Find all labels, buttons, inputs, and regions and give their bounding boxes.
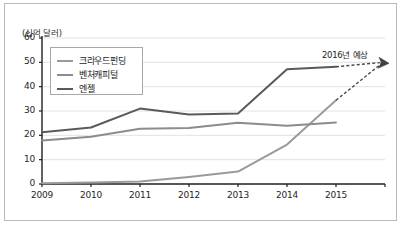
forecast-annotation-label: 2016년 예상 [322, 48, 368, 60]
forecast-dashed-line-2 [336, 62, 383, 66]
series-line-1 [42, 122, 336, 140]
legend-label: 벤처캐피털 [79, 71, 118, 80]
forecast-dashed-line-0 [336, 62, 383, 100]
y-tick-label-10: 10 [13, 154, 35, 164]
legend-swatch-line-icon [57, 60, 73, 62]
forecast-arrows [336, 57, 389, 100]
x-tick-label-2011: 2011 [120, 190, 160, 200]
legend-swatch-line-icon [57, 88, 73, 90]
legend-swatch-line-icon [57, 74, 73, 76]
y-tick-label-40: 40 [13, 81, 35, 91]
y-tick-label-30: 30 [13, 105, 35, 115]
x-tick-label-2014: 2014 [267, 190, 307, 200]
y-tick-label-60: 60 [13, 32, 35, 42]
legend-item-2: 엔젤 [57, 82, 94, 96]
x-tick-label-2010: 2010 [71, 190, 111, 200]
series-line-0 [42, 100, 336, 183]
x-tick-label-2009: 2009 [22, 190, 62, 200]
chart-figure: (십억 달러) 6050403020100 200920102011201220… [0, 0, 402, 225]
x-tick-label-2013: 2013 [218, 190, 258, 200]
legend-label: 엔젤 [79, 85, 94, 94]
legend-item-0: 크라우드펀딩 [57, 54, 125, 68]
y-tick-label-0: 0 [13, 178, 35, 188]
y-tick-label-20: 20 [13, 129, 35, 139]
x-tick-label-2012: 2012 [169, 190, 209, 200]
x-tick-label-2015: 2015 [316, 190, 356, 200]
chart-legend: 크라우드펀딩벤처캐피털엔젤 [50, 47, 143, 95]
legend-item-1: 벤처캐피털 [57, 68, 118, 82]
legend-label: 크라우드펀딩 [79, 57, 125, 66]
y-tick-label-50: 50 [13, 56, 35, 66]
